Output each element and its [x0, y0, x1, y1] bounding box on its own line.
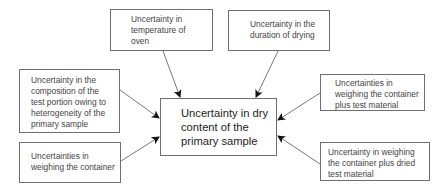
arrow-weigh-container-dried	[278, 136, 320, 164]
node-label: Uncertainty in weighing the container pl…	[328, 147, 429, 180]
node-weigh-container: Uncertainties in weighing the container	[19, 142, 121, 183]
node-composition: Uncertainty in the composition of the te…	[19, 69, 120, 133]
arrow-weigh-container-test	[278, 93, 320, 120]
node-drying-duration: Uncertainty in the duration of drying	[228, 10, 330, 51]
node-label: Uncertainties in weighing the container	[31, 151, 120, 173]
node-weigh-container-dried: Uncertainty in weighing the container pl…	[320, 142, 430, 181]
node-label: Uncertainty in temperature of oven	[131, 14, 212, 47]
arrow-weigh-container	[121, 137, 159, 161]
node-label: Uncertainty in the composition of the te…	[31, 75, 119, 130]
node-weigh-container-test: Uncertainties in weighing the container …	[320, 74, 425, 111]
center-label: Uncertainty in dry content of the primar…	[181, 106, 276, 148]
node-label: Uncertainty in the duration of drying	[250, 19, 329, 41]
arrow-oven-temp	[163, 51, 180, 97]
arrow-composition	[120, 90, 159, 118]
node-oven-temperature: Uncertainty in temperature of oven	[110, 9, 213, 51]
arrow-drying-duration	[256, 51, 278, 97]
center-node-dry-content: Uncertainty in dry content of the primar…	[160, 98, 277, 156]
node-label: Uncertainties in weighing the container …	[335, 78, 424, 111]
